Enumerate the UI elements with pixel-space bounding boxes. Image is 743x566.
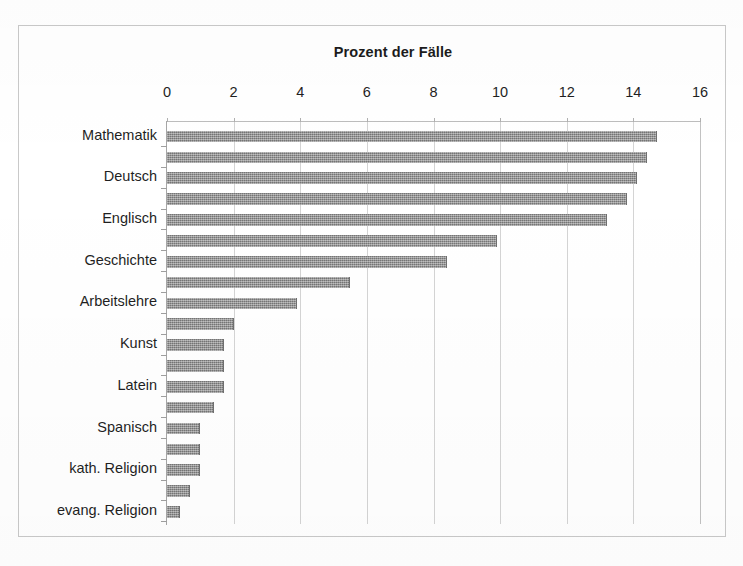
category-tick [161,521,167,522]
category-tick [161,396,167,397]
category-tick [161,250,167,251]
plot-area: 0246810121416 [167,122,700,524]
category-tick [161,459,167,460]
value-tick-14 [633,118,634,122]
chart-title: Prozent der Fälle [19,44,725,60]
gridline-16 [700,122,701,524]
category-tick [161,146,167,147]
bar [167,464,200,476]
value-tick-4 [300,118,301,122]
category-label-geschichte: Geschichte [84,252,167,268]
chart-figure: Prozent der Fälle MathematikDeutschEngli… [18,25,726,537]
bar [167,256,447,268]
value-tick-8 [434,118,435,122]
bar [167,506,180,518]
category-tick [161,167,167,168]
value-tick-label-14: 14 [625,84,641,100]
bar [167,423,200,435]
category-tick [161,355,167,356]
value-tick-label-8: 8 [429,84,437,100]
bar [167,444,200,456]
bar [167,381,224,393]
bar [167,318,234,330]
bar [167,193,627,205]
category-tick [161,188,167,189]
category-tick [161,334,167,335]
bar [167,235,497,247]
category-tick [161,313,167,314]
bar [167,152,647,164]
bar [167,402,214,414]
value-tick-label-0: 0 [163,84,171,100]
value-tick-label-16: 16 [692,84,708,100]
category-tick [161,292,167,293]
bar [167,339,224,351]
category-label-kunst: Kunst [120,335,167,351]
value-tick-10 [500,118,501,122]
category-label-englisch: Englisch [102,210,167,226]
value-tick-label-10: 10 [492,84,508,100]
bar [167,360,224,372]
category-label-mathematik: Mathematik [82,127,167,143]
bar [167,485,190,497]
value-tick-6 [367,118,368,122]
category-tick [161,438,167,439]
bar [167,214,607,226]
category-tick [161,500,167,501]
category-label-arbeitslehre: Arbeitslehre [80,293,167,309]
value-tick-2 [234,118,235,122]
value-tick-label-12: 12 [559,84,575,100]
category-label-latein: Latein [117,377,167,393]
category-tick [161,480,167,481]
value-tick-12 [567,118,568,122]
value-tick-0 [167,118,168,122]
category-tick [161,209,167,210]
category-tick [161,417,167,418]
category-axis-labels: MathematikDeutschEnglischGeschichteArbei… [19,122,167,524]
category-label-evang-religion: evang. Religion [57,502,167,518]
value-tick-label-4: 4 [296,84,304,100]
bar [167,131,657,143]
category-label-spanisch: Spanisch [97,419,167,435]
category-label-deutsch: Deutsch [104,168,167,184]
bar [167,277,350,289]
value-tick-label-6: 6 [363,84,371,100]
value-tick-label-2: 2 [230,84,238,100]
category-tick [161,271,167,272]
category-label-kath-religion: kath. Religion [69,460,167,476]
category-tick [161,375,167,376]
category-tick [161,229,167,230]
value-tick-16 [700,118,701,122]
bar [167,172,637,184]
bar [167,298,297,310]
